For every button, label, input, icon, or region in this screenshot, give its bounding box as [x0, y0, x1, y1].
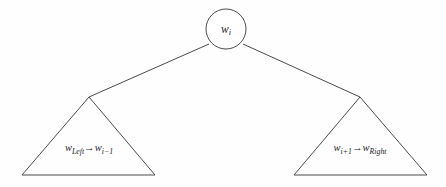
left-to-base: w: [95, 142, 102, 153]
tree-diagram: wi wLeft→wi−1 wi+1→wRight: [0, 0, 446, 187]
left-to-subscript: i−1: [102, 147, 113, 156]
left-from-subscript: Left: [71, 147, 85, 156]
edge-root-to-right-subtree: [243, 44, 360, 97]
right-subtree-triangle: [294, 97, 427, 175]
right-arrow-icon: →: [352, 141, 363, 153]
right-from-subscript: i+1: [341, 147, 352, 156]
right-to-subscript: Right: [369, 147, 388, 156]
edge-root-to-left-subtree: [89, 44, 209, 97]
left-from-base: w: [65, 142, 72, 153]
right-to-base: w: [363, 142, 370, 153]
right-from-base: w: [334, 142, 341, 153]
right-subtree-label: wi+1→wRight: [334, 141, 388, 155]
left-subtree-label: wLeft→wi−1: [65, 141, 113, 155]
left-subtree-triangle: [22, 97, 155, 175]
left-arrow-icon: →: [84, 141, 95, 153]
